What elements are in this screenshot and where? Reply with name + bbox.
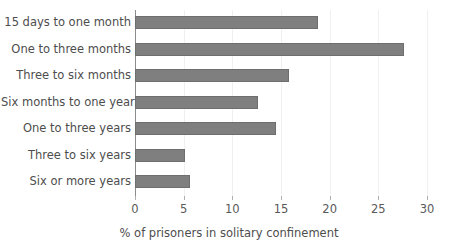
- x-axis-tick: [135, 196, 136, 200]
- x-axis-tick-label: 15: [261, 202, 301, 216]
- bar-row: [135, 169, 427, 196]
- y-axis-category-label: Six or more years: [1, 175, 131, 188]
- x-axis-tick: [427, 196, 428, 200]
- y-axis-category-label: Three to six years: [1, 149, 131, 162]
- x-axis-tick: [378, 196, 379, 200]
- bar-row: [135, 90, 427, 117]
- y-axis-category-label: Three to six months: [1, 69, 131, 82]
- bar-row: [135, 37, 427, 64]
- bar-row: [135, 63, 427, 90]
- y-axis-category-label: One to three years: [1, 122, 131, 135]
- plot-area: [135, 10, 427, 196]
- x-axis-tick-label: 25: [358, 202, 398, 216]
- bar-row: [135, 116, 427, 143]
- bar: [135, 16, 318, 29]
- bar: [135, 43, 404, 56]
- y-axis-category-label: 15 days to one month: [1, 16, 131, 29]
- bar: [135, 69, 289, 82]
- bar: [135, 175, 190, 188]
- x-axis-tick: [281, 196, 282, 200]
- bar-chart: 15 days to one monthOne to three monthsT…: [0, 0, 458, 249]
- x-axis-tick-label: 10: [212, 202, 252, 216]
- gridline: [427, 10, 428, 196]
- x-axis-tick-label: 0: [115, 202, 155, 216]
- x-axis-tick-label: 5: [164, 202, 204, 216]
- x-axis-tick-label: 30: [407, 202, 447, 216]
- bar-row: [135, 143, 427, 170]
- x-axis-tick-label: 20: [310, 202, 350, 216]
- bar: [135, 149, 185, 162]
- y-axis-category-label: Six months to one year: [1, 96, 131, 109]
- bar: [135, 122, 276, 135]
- bar: [135, 96, 258, 109]
- x-axis-tick: [184, 196, 185, 200]
- x-axis-tick: [330, 196, 331, 200]
- y-axis-category-labels: 15 days to one monthOne to three monthsT…: [0, 10, 131, 196]
- x-axis-tick: [232, 196, 233, 200]
- bar-row: [135, 10, 427, 37]
- x-axis-title: % of prisoners in solitary confinement: [0, 226, 458, 240]
- y-axis-category-label: One to three months: [1, 43, 131, 56]
